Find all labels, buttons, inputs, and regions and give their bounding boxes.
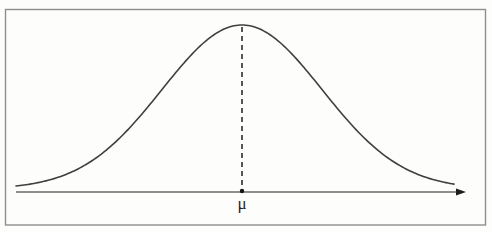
figure-canvas: μ xyxy=(0,0,492,232)
normal-curve-figure: μ xyxy=(0,0,492,232)
mean-label: μ xyxy=(237,194,246,213)
mean-point-dot xyxy=(240,189,244,193)
axis-arrowhead-icon xyxy=(456,188,466,195)
figure-border xyxy=(6,10,486,226)
bell-curve xyxy=(16,25,454,186)
